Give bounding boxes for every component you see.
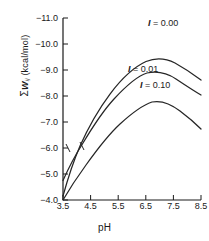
chart-figure: ΣWij (kcal/mol) −11.0 −10.0 −9.0 −8.0 −7…: [0, 0, 209, 241]
series-value: = 0.00: [153, 18, 178, 28]
x-tick-label: 5.5: [103, 202, 133, 211]
series-value: = 0.10: [145, 80, 170, 90]
x-axis-tick-labels: 3.5 4.5 5.5 6.5 7.5 8.5: [0, 202, 209, 216]
axes: [63, 18, 201, 200]
curve-I-0.01: [63, 72, 201, 180]
x-tick-label: 6.5: [131, 202, 161, 211]
series-symbol: I: [140, 80, 143, 90]
series-symbol: I: [128, 64, 131, 74]
x-tick-label: 7.5: [158, 202, 188, 211]
x-axis-ticks: [63, 195, 201, 200]
curve-I-0.10: [63, 101, 201, 200]
series-label-I-0.01: I = 0.01: [128, 64, 158, 74]
curve-markers: [66, 142, 84, 152]
data-curves: [63, 59, 201, 200]
curve-I-0.00: [63, 59, 201, 196]
x-tick-label: 4.5: [76, 202, 106, 211]
x-tick-label: 8.5: [186, 202, 209, 211]
series-label-I-0.10: I = 0.10: [140, 80, 170, 90]
series-label-I-0.00: I = 0.00: [148, 18, 178, 28]
x-tick-label: 3.5: [48, 202, 78, 211]
series-value: = 0.01: [133, 64, 158, 74]
x-axis-label: pH: [0, 222, 209, 233]
series-symbol: I: [148, 18, 151, 28]
